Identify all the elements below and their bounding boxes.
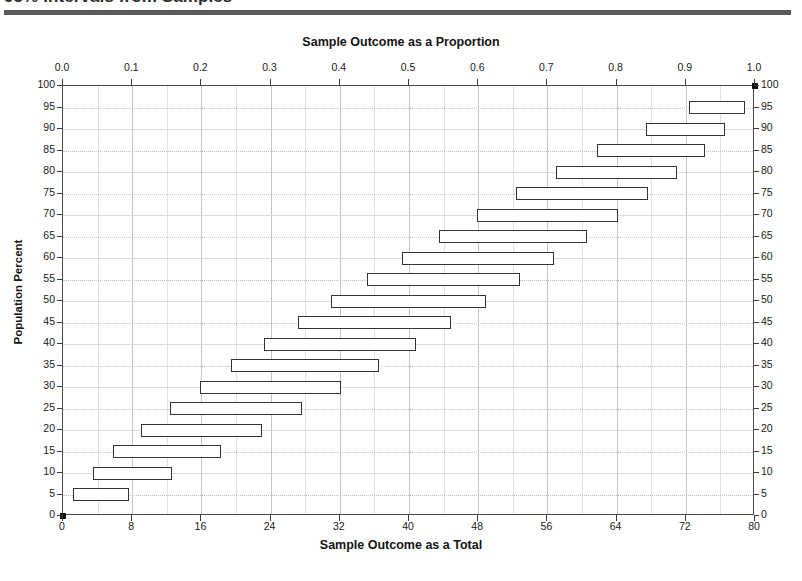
tick-right	[754, 472, 759, 473]
tick-label-bottom: 80	[734, 520, 774, 532]
confidence-interval-box[interactable]	[477, 209, 618, 222]
tick-right	[754, 85, 759, 86]
confidence-interval-box[interactable]	[200, 381, 341, 394]
tick-label-top: 0.9	[665, 61, 705, 73]
confidence-interval-box[interactable]	[646, 123, 725, 136]
tick-left	[57, 279, 62, 280]
confidence-interval-box[interactable]	[556, 166, 678, 179]
tick-label-bottom: 0	[42, 520, 82, 532]
confidence-interval-box[interactable]	[689, 101, 744, 114]
tick-label-bottom: 72	[665, 520, 705, 532]
tick-label-top: 0.7	[526, 61, 566, 73]
tick-left	[57, 300, 62, 301]
gridline-horizontal	[63, 215, 753, 216]
tick-left	[57, 365, 62, 366]
corner-marker-max	[752, 83, 758, 89]
tick-label-right: 0	[761, 508, 791, 520]
tick-right	[754, 515, 759, 516]
tick-label-right: 100	[761, 78, 791, 90]
confidence-interval-box[interactable]	[516, 187, 647, 200]
tick-right	[754, 408, 759, 409]
top-axis-title: Sample Outcome as a Proportion	[0, 35, 802, 49]
tick-top	[62, 79, 63, 85]
tick-label-top: 0.0	[42, 61, 82, 73]
tick-label-right: 30	[761, 379, 791, 391]
confidence-interval-box[interactable]	[402, 252, 554, 265]
confidence-interval-box[interactable]	[93, 467, 172, 480]
tick-label-right: 60	[761, 250, 791, 262]
tick-top	[339, 79, 340, 85]
confidence-interval-box[interactable]	[170, 402, 301, 415]
tick-label-right: 95	[761, 100, 791, 112]
tick-right	[754, 214, 759, 215]
tick-label-right: 15	[761, 444, 791, 456]
confidence-interval-box[interactable]	[597, 144, 705, 157]
tick-label-left: 25	[25, 401, 55, 413]
tick-label-left: 5	[25, 487, 55, 499]
tick-left	[57, 515, 62, 516]
tick-label-top: 1.0	[734, 61, 774, 73]
tick-label-top: 0.3	[250, 61, 290, 73]
tick-label-left: 75	[25, 186, 55, 198]
tick-label-bottom: 8	[111, 520, 151, 532]
tick-right	[754, 451, 759, 452]
header-divider	[4, 10, 791, 15]
tick-label-right: 40	[761, 336, 791, 348]
tick-label-left: 50	[25, 293, 55, 305]
tick-right	[754, 236, 759, 237]
confidence-interval-box[interactable]	[298, 316, 452, 329]
tick-right	[754, 171, 759, 172]
tick-left	[57, 494, 62, 495]
tick-top	[408, 79, 409, 85]
tick-top	[270, 79, 271, 85]
tick-label-top: 0.4	[319, 61, 359, 73]
tick-label-bottom: 40	[388, 520, 428, 532]
gridline-horizontal	[63, 409, 753, 410]
tick-label-right: 45	[761, 315, 791, 327]
tick-left	[57, 451, 62, 452]
tick-top	[477, 79, 478, 85]
tick-label-right: 55	[761, 272, 791, 284]
tick-label-bottom: 16	[180, 520, 220, 532]
tick-label-left: 10	[25, 465, 55, 477]
tick-label-left: 40	[25, 336, 55, 348]
confidence-interval-box[interactable]	[113, 445, 221, 458]
confidence-interval-box[interactable]	[439, 230, 587, 243]
confidence-interval-box[interactable]	[73, 488, 128, 501]
tick-label-bottom: 32	[319, 520, 359, 532]
tick-label-left: 85	[25, 143, 55, 155]
confidence-interval-box[interactable]	[367, 273, 521, 286]
tick-right	[754, 343, 759, 344]
confidence-interval-box[interactable]	[331, 295, 486, 308]
tick-top	[685, 79, 686, 85]
tick-left	[57, 107, 62, 108]
tick-label-right: 85	[761, 143, 791, 155]
tick-label-right: 65	[761, 229, 791, 241]
tick-top	[131, 79, 132, 85]
tick-label-top: 0.2	[180, 61, 220, 73]
gridline-horizontal	[63, 366, 753, 367]
corner-marker-origin	[60, 513, 66, 519]
tick-label-left: 55	[25, 272, 55, 284]
tick-label-left: 60	[25, 250, 55, 262]
tick-left	[57, 171, 62, 172]
plot-area	[62, 85, 754, 515]
tick-label-left: 35	[25, 358, 55, 370]
page-title: 95% Intervals from Samples	[4, 0, 232, 7]
confidence-interval-box[interactable]	[141, 424, 263, 437]
tick-label-right: 70	[761, 207, 791, 219]
gridline-horizontal	[63, 237, 753, 238]
tick-label-left: 65	[25, 229, 55, 241]
tick-left	[57, 193, 62, 194]
tick-label-left: 45	[25, 315, 55, 327]
tick-right	[754, 386, 759, 387]
tick-label-left: 95	[25, 100, 55, 112]
tick-label-right: 20	[761, 422, 791, 434]
confidence-interval-chart: Sample Outcome as a Proportion Populatio…	[0, 18, 802, 581]
tick-right	[754, 300, 759, 301]
tick-right	[754, 150, 759, 151]
confidence-interval-box[interactable]	[231, 359, 379, 372]
confidence-interval-box[interactable]	[264, 338, 416, 351]
tick-left	[57, 214, 62, 215]
tick-label-bottom: 64	[596, 520, 636, 532]
